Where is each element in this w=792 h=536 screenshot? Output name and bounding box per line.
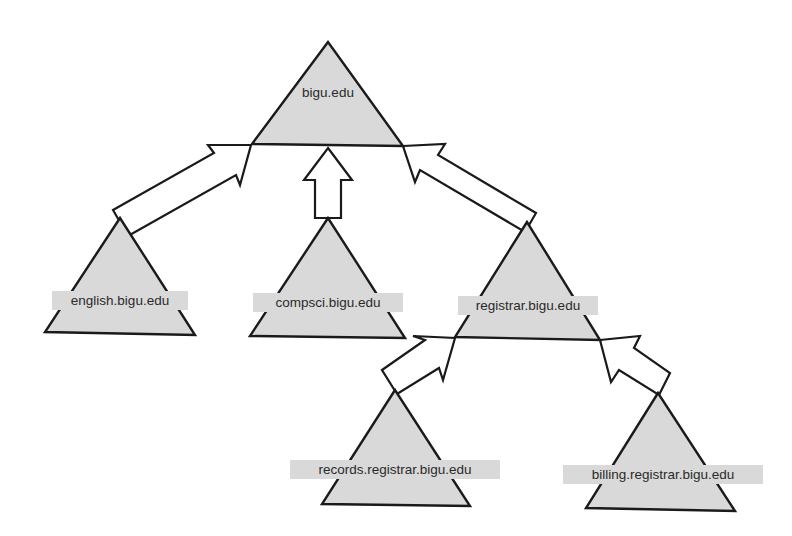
node-label-billing: billing.registrar.bigu.edu	[592, 467, 735, 482]
arrow-billing-to-registrar-icon	[600, 336, 670, 395]
node-label-english: english.bigu.edu	[71, 293, 169, 308]
node-registrar-bigu-edu: registrar.bigu.edu	[455, 222, 600, 340]
node-label-records: records.registrar.bigu.edu	[318, 462, 471, 477]
node-label-compsci: compsci.bigu.edu	[275, 295, 380, 310]
zone-triangle-records	[322, 390, 470, 506]
arrow-english-to-root-icon	[113, 145, 251, 236]
arrow-records-to-registrar	[382, 336, 455, 394]
zone-triangle-compsci	[250, 218, 405, 338]
arrow-registrar-to-root	[403, 144, 536, 232]
node-label-root: bigu.edu	[302, 85, 354, 100]
arrow-registrar-to-root-icon	[403, 144, 536, 232]
zone-triangle-registrar	[455, 222, 600, 340]
arrow-records-to-registrar-icon	[382, 336, 455, 394]
arrow-compsci-to-root	[304, 148, 352, 218]
domain-hierarchy-diagram: bigu.edu english.bigu.edu compsci.bigu.e…	[0, 0, 792, 536]
arrow-english-to-root	[113, 145, 251, 236]
node-records-registrar-bigu-edu: records.registrar.bigu.edu	[290, 390, 500, 506]
node-bigu-edu: bigu.edu	[252, 42, 403, 146]
zone-triangle-english	[45, 218, 195, 335]
zone-triangle-billing	[586, 393, 735, 511]
node-label-registrar: registrar.bigu.edu	[476, 298, 580, 313]
node-compsci-bigu-edu: compsci.bigu.edu	[250, 218, 405, 338]
node-billing-registrar-bigu-edu: billing.registrar.bigu.edu	[563, 393, 763, 511]
arrow-compsci-to-root-icon	[304, 148, 352, 218]
arrow-billing-to-registrar	[600, 336, 670, 395]
node-english-bigu-edu: english.bigu.edu	[45, 218, 195, 335]
